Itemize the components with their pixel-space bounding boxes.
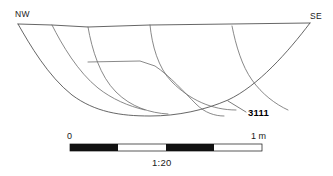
scale-start-label: 0 bbox=[67, 131, 72, 141]
section-drawing-canvas: NW SE 3111 0 1 m 1:20 bbox=[0, 0, 333, 176]
scale-ratio-label: 1:20 bbox=[152, 157, 172, 168]
scale-bar-segment-1 bbox=[70, 144, 118, 151]
scale-bar-segment-2 bbox=[118, 144, 166, 151]
orientation-label-se: SE bbox=[310, 11, 322, 21]
context-number-label: 3111 bbox=[248, 107, 269, 118]
orientation-label-nw: NW bbox=[15, 9, 30, 19]
scale-end-label: 1 m bbox=[251, 131, 266, 141]
section-drawing-figure: NW SE 3111 0 1 m 1:20 bbox=[0, 0, 333, 176]
scale-bar-segment-3 bbox=[166, 144, 214, 151]
scale-bar-segment-4 bbox=[214, 144, 262, 151]
